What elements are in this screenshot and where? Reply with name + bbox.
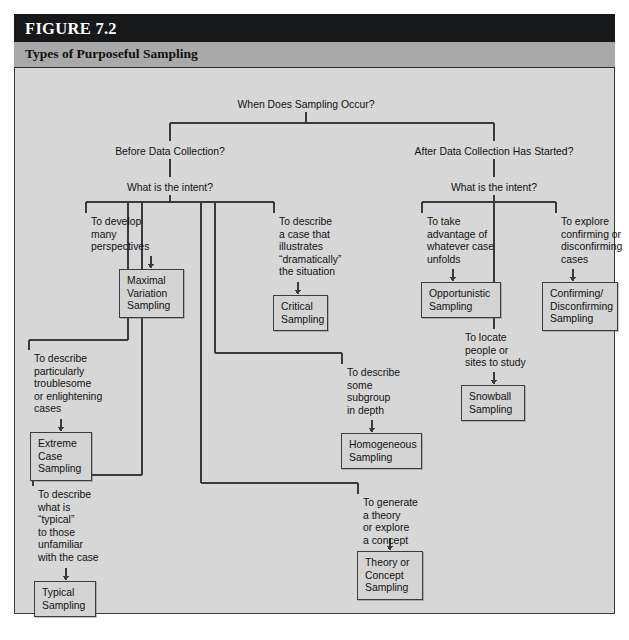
rationale-confirming-disconfirming: To explore confirming or disconfirming c… [561, 216, 622, 266]
figure-number-label: FIGURE 7.2 [25, 19, 117, 39]
rationale-critical: To describe a case that illustrates “dra… [279, 216, 341, 279]
term-box-confirming-disconfirming[interactable]: Confirming/ Disconfirming Sampling [542, 282, 618, 331]
figure-header-bar: FIGURE 7.2 [14, 14, 615, 42]
branch-label-after: After Data Collection Has Started? [415, 146, 574, 159]
rationale-opportunistic: To take advantage of whatever case unfol… [427, 216, 494, 266]
figure-frame: FIGURE 7.2 Types of Purposeful Sampling [14, 14, 615, 614]
rationale-snowball: To locate people or sites to study [465, 332, 526, 370]
rationale-theory-concept: To generate a theory or explore a concep… [363, 497, 418, 547]
term-box-snowball[interactable]: Snowball Sampling [461, 385, 525, 421]
root-question: When Does Sampling Occur? [238, 99, 375, 112]
term-box-critical[interactable]: Critical Sampling [273, 295, 328, 331]
branch-question-after: What is the intent? [451, 182, 537, 195]
term-box-typical[interactable]: Typical Sampling [34, 581, 96, 617]
term-box-extreme-case[interactable]: Extreme Case Sampling [30, 432, 92, 481]
term-box-homogeneous[interactable]: Homogeneous Sampling [341, 433, 422, 469]
branch-question-before: What is the intent? [127, 182, 213, 195]
rationale-maximal-variation: To develop many perspectives [91, 216, 149, 254]
rationale-typical: To describe what is “typical” to those u… [38, 489, 99, 565]
branch-label-before: Before Data Collection? [115, 146, 225, 159]
rationale-homogeneous: To describe some subgroup in depth [347, 367, 400, 417]
figure-title: Types of Purposeful Sampling [25, 46, 198, 62]
figure-container: FIGURE 7.2 Types of Purposeful Sampling [0, 0, 629, 640]
term-box-maximal-variation[interactable]: Maximal Variation Sampling [119, 269, 184, 318]
term-box-opportunistic[interactable]: Opportunistic Sampling [421, 282, 501, 318]
figure-subheader-bar: Types of Purposeful Sampling [14, 42, 615, 68]
rationale-extreme-case: To describe particularly troublesome or … [34, 353, 102, 416]
term-box-theory-concept[interactable]: Theory or Concept Sampling [357, 551, 423, 600]
figure-body: When Does Sampling Occur? Before Data Co… [14, 68, 615, 614]
